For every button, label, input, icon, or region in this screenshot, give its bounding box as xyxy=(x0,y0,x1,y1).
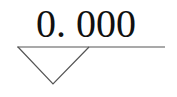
elevation-triangle-icon xyxy=(18,47,89,84)
elevation-marker-symbol xyxy=(0,0,177,97)
